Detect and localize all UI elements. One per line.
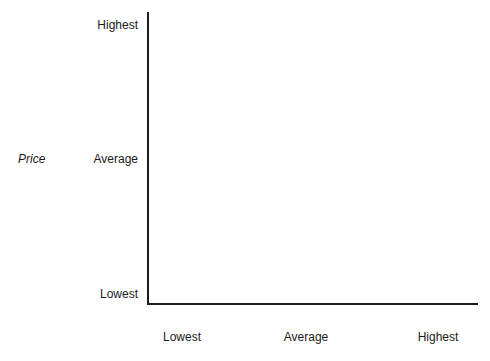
x-axis-tick-label-lowest: Lowest bbox=[163, 330, 201, 344]
x-axis-tick-label-highest: Highest bbox=[418, 330, 459, 344]
x-axis-tick-label-average: Average bbox=[284, 330, 328, 344]
plot-area bbox=[149, 12, 478, 303]
y-axis-title: Price bbox=[18, 152, 45, 166]
y-axis-tick-label-lowest: Lowest bbox=[100, 287, 138, 301]
chart-figure: Price Highest Average Lowest Lowest Aver… bbox=[0, 0, 490, 361]
y-axis-tick-label-average: Average bbox=[94, 152, 138, 166]
y-axis-tick-label-highest: Highest bbox=[97, 18, 138, 32]
x-axis-line bbox=[147, 303, 478, 305]
